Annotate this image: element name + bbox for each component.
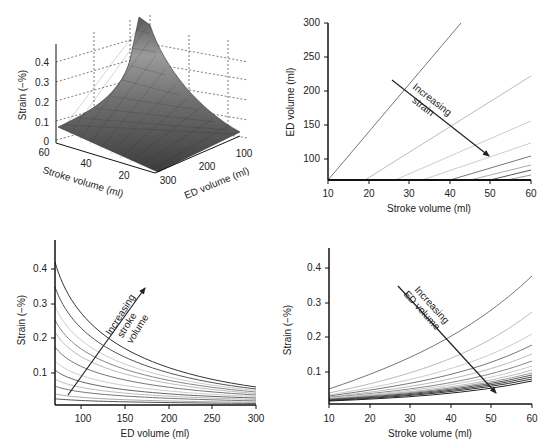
strain-vs-sv-x-tick: 50 [485, 413, 497, 424]
strain-vs-edv-x-label: ED volume (ml) [121, 428, 190, 439]
increasing-ed-volume-annotation: Increasing ED volume [402, 281, 452, 333]
strain-vs-edv-x-tick: 150 [117, 413, 134, 424]
iso-strain-x-tick: 40 [444, 188, 456, 199]
surface-ed-tick: 200 [199, 161, 216, 172]
surface-z-tick: 0.2 [35, 97, 49, 108]
strain-vs-sv-x-label: Stroke volume (ml) [388, 428, 472, 439]
iso-strain-x-tick: 30 [403, 188, 415, 199]
strain-vs-edv-y-tick: 0.2 [33, 332, 47, 343]
iso-strain-y-tick: 200 [303, 85, 320, 96]
strain-vs-edv-y-tick: 0.4 [33, 263, 47, 274]
iso-strain-y-tick: 300 [303, 17, 320, 28]
increasing-strain-arrow-icon [392, 80, 489, 156]
surface-sv-tick: 40 [80, 158, 92, 169]
surface-mesh [58, 17, 240, 172]
surface-panel: 0 0.1 0.2 0.3 0.4 Strain (−%) 60 40 20 S… [17, 15, 253, 201]
strain-vs-sv-x-tick: 40 [445, 413, 457, 424]
strain-vs-sv-y-tick: 0.2 [307, 331, 321, 342]
strain-vs-edv-x-tick: 300 [248, 413, 265, 424]
surface-ed-tick: 100 [236, 148, 253, 159]
strain-vs-sv-y-tick: 0.1 [307, 366, 321, 377]
surface-ed-label: ED volume (ml) [183, 165, 251, 201]
surface-z-tick: 0 [43, 136, 49, 147]
strain-vs-sv-y-label: Strain (−%) [282, 305, 293, 355]
surface-z-label: Strain (−%) [17, 70, 28, 120]
strain-vs-edv-x-tick: 250 [204, 413, 221, 424]
strain-vs-edv-panel: 0.1 0.2 0.3 0.4 100 150 200 250 300 ED v… [16, 240, 265, 439]
strain-vs-edv-ticks [51, 269, 256, 409]
strain-vs-sv-y-tick: 0.3 [307, 297, 321, 308]
surface-z-tick: 0.4 [35, 57, 49, 68]
iso-strain-x-tick: 20 [363, 188, 375, 199]
strain-vs-sv-x-tick: 20 [364, 413, 376, 424]
strain-vs-sv-x-tick: 60 [526, 413, 538, 424]
strain-vs-edv-y-tick: 0.1 [33, 367, 47, 378]
surface-ed-tick: 300 [160, 175, 177, 186]
strain-vs-edv-x-tick: 200 [161, 413, 178, 424]
iso-strain-y-tick: 250 [303, 51, 320, 62]
surface-z-tick: 0.1 [35, 117, 49, 128]
iso-strain-y-label: ED volume (ml) [285, 68, 296, 137]
iso-strain-y-tick: 150 [303, 119, 320, 130]
strain-vs-edv-y-tick: 0.3 [33, 298, 47, 309]
surface-z-tick: 0.3 [35, 77, 49, 88]
iso-strain-x-tick: 60 [525, 188, 537, 199]
strain-vs-sv-panel: 0.1 0.2 0.3 0.4 10 20 30 40 50 60 Stroke… [282, 248, 538, 439]
iso-strain-x-label: Stroke volume (ml) [387, 203, 471, 214]
increasing-strain-annotation: Increasing strain [404, 81, 454, 127]
surface-sv-tick: 60 [38, 147, 50, 158]
surface-sv-label: Stroke volume (ml) [41, 164, 124, 199]
strain-vs-sv-x-tick: 30 [404, 413, 416, 424]
strain-vs-sv-y-tick: 0.4 [307, 262, 321, 273]
iso-strain-panel: 100 150 200 250 300 10 20 30 40 50 60 St… [285, 17, 537, 214]
figure: 0 0.1 0.2 0.3 0.4 Strain (−%) 60 40 20 S… [0, 0, 549, 446]
iso-strain-y-tick: 100 [303, 153, 320, 164]
strain-vs-edv-curves [55, 262, 256, 403]
strain-vs-edv-x-tick: 100 [75, 413, 92, 424]
surface-sv-tick: 20 [118, 170, 130, 181]
iso-strain-x-tick: 50 [484, 188, 496, 199]
iso-strain-x-tick: 10 [322, 188, 334, 199]
strain-vs-sv-x-tick: 10 [323, 413, 335, 424]
strain-vs-edv-y-label: Strain (−%) [16, 295, 27, 345]
